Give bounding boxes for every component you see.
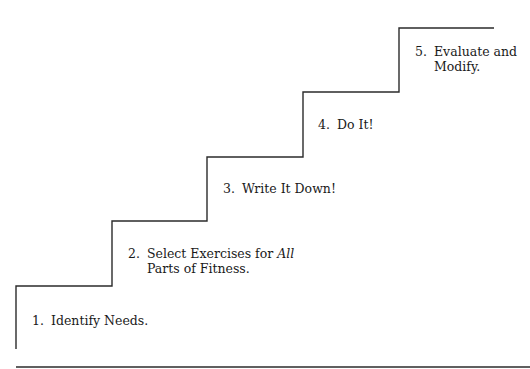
step-5-label: 5. Evaluate and Modify. — [415, 44, 517, 74]
step-1-label: 1. Identify Needs. — [32, 313, 148, 328]
step-2-label: 2. Select Exercises for All Parts of Fit… — [128, 246, 294, 276]
step-3-label: 3. Write It Down! — [223, 181, 336, 196]
step-4-label: 4. Do It! — [318, 117, 374, 132]
